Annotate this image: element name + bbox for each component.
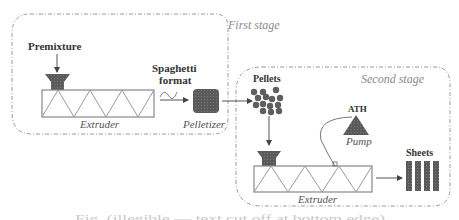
process-flow-diagram: First stage Second stage Premixture Extr…: [0, 0, 459, 220]
pellets-label: Pellets: [253, 73, 281, 84]
pelletizer-label: Pelletizer: [182, 118, 226, 130]
extruder-2: Extruder: [254, 166, 372, 205]
spaghetti-label-line2: format: [159, 74, 192, 86]
sheets-label: Sheets: [406, 147, 433, 158]
spaghetti-label-line1: Spaghetti: [152, 62, 197, 74]
extruder-2-label: Extruder: [297, 193, 338, 205]
sheets-icon: [406, 161, 439, 191]
second-stage-label: Second stage: [361, 72, 425, 86]
ath-label: ATH: [348, 104, 367, 114]
pellets-icon: [251, 87, 283, 115]
pelletizer-icon: [193, 89, 219, 113]
spaghetti-strand-icon: [160, 92, 177, 99]
hopper-icon-1: [45, 74, 70, 90]
hopper-icon-2: [257, 151, 281, 166]
extruder-1-label: Extruder: [79, 118, 120, 130]
premixture-label: Premixture: [28, 40, 81, 52]
first-stage-label: First stage: [227, 18, 280, 32]
figure-caption: Fig. (illegible — text cut off at bottom…: [75, 213, 385, 220]
pump-icon: [343, 115, 369, 135]
pump-label: Pump: [345, 135, 372, 147]
extruder-1: Extruder: [42, 90, 154, 130]
